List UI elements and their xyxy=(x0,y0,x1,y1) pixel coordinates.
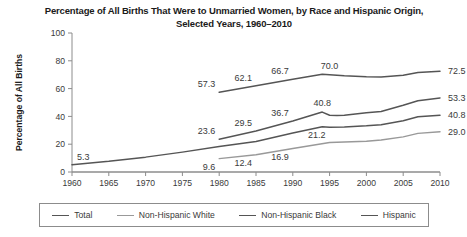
legend-item-hispanic[interactable]: Hispanic xyxy=(359,210,418,220)
data-label-non-hispanic-black: 72.5 xyxy=(448,66,466,76)
x-axis-tick-label: 1965 xyxy=(99,178,118,188)
legend-item-label: Non-Hispanic White xyxy=(139,210,215,220)
chart-figure: Percentage of All Births That Were to Un… xyxy=(0,0,467,237)
y-axis-tick-label: 0 xyxy=(60,167,65,177)
data-label-non-hispanic-black: 62.1 xyxy=(234,73,252,83)
legend-item-label: Hispanic xyxy=(383,210,416,220)
x-axis-tick-label: 1970 xyxy=(136,178,155,188)
series-line-non-hispanic-white xyxy=(219,132,440,159)
legend-line-swatch xyxy=(239,215,256,216)
data-label-non-hispanic-white: 21.2 xyxy=(308,130,326,140)
data-label-non-hispanic-white: 12.4 xyxy=(234,158,252,168)
x-axis-tick-label: 2010 xyxy=(430,178,449,188)
legend-item-total[interactable]: Total xyxy=(50,210,94,220)
y-axis-tick-label: 20 xyxy=(55,139,65,149)
y-axis-title: Percentage of All Births xyxy=(14,54,24,151)
data-label-non-hispanic-white: 9.6 xyxy=(203,162,216,172)
x-axis-tick-label: 1995 xyxy=(320,178,339,188)
data-label-non-hispanic-black: 57.3 xyxy=(198,79,216,89)
series-line-non-hispanic-black xyxy=(219,71,440,92)
x-axis-tick-label: 2000 xyxy=(357,178,376,188)
legend-line-swatch xyxy=(52,215,69,216)
legend-line-swatch xyxy=(117,215,134,216)
legend-line-swatch xyxy=(361,215,378,216)
data-label-hispanic: 53.3 xyxy=(448,93,466,103)
data-label-hispanic: 23.6 xyxy=(198,126,216,136)
x-axis-tick-label: 1985 xyxy=(246,178,265,188)
plot-area: 0204060801001960196519701975198019851990… xyxy=(0,0,467,200)
x-axis-tick-label: 1975 xyxy=(173,178,192,188)
y-axis-tick-label: 100 xyxy=(51,28,66,38)
data-label-total: 40.8 xyxy=(448,110,466,120)
legend-item-non-hispanic-white[interactable]: Non-Hispanic White xyxy=(115,210,217,220)
data-label-non-hispanic-white: 29.0 xyxy=(448,127,466,137)
legend-item-label: Non-Hispanic Black xyxy=(261,210,336,220)
data-label-hispanic: 29.5 xyxy=(234,118,252,128)
x-axis-tick-label: 1990 xyxy=(283,178,302,188)
x-axis-tick-label: 1980 xyxy=(210,178,229,188)
data-label-hispanic: 40.8 xyxy=(313,98,331,108)
x-axis-tick-label: 1960 xyxy=(62,178,81,188)
legend-item-label: Total xyxy=(74,210,92,220)
data-label-origin: 5.3 xyxy=(77,152,90,162)
data-label-non-hispanic-black: 70.0 xyxy=(321,61,339,71)
y-axis-tick-label: 80 xyxy=(55,56,65,66)
y-axis-tick-label: 40 xyxy=(55,112,65,122)
y-axis-tick-label: 60 xyxy=(55,84,65,94)
data-label-non-hispanic-black: 66.7 xyxy=(271,66,289,76)
data-label-hispanic: 36.7 xyxy=(271,108,289,118)
data-label-non-hispanic-white: 16.9 xyxy=(271,152,289,162)
chart-legend: TotalNon-Hispanic WhiteNon-Hispanic Blac… xyxy=(39,203,429,227)
x-axis-tick-label: 2005 xyxy=(394,178,413,188)
legend-item-non-hispanic-black[interactable]: Non-Hispanic Black xyxy=(237,210,338,220)
